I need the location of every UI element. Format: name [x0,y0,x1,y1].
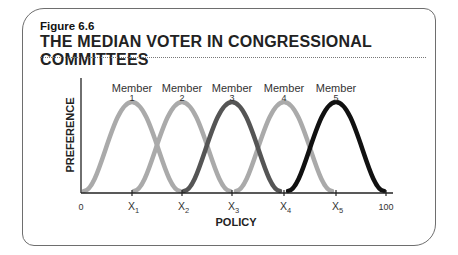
tick-label-x4: X4 [280,200,291,215]
tick-label-x5: X5 [332,200,343,215]
curve-member-2 [134,102,230,191]
chart: Member 1 Member 2 Member 3 Member 4 Memb… [0,0,458,255]
x-axis-title: POLICY [216,216,258,228]
curve-member-1 [84,102,180,191]
tick-label-x3: X3 [228,200,239,215]
tick-label-x1: X1 [128,200,139,215]
member-number-4: 4 [281,93,286,103]
member-number-2: 2 [179,93,184,103]
member-number-5: 5 [333,93,338,103]
curve-member-5 [288,102,384,191]
curve-member-4 [236,102,332,191]
tick-label-0: 0 [78,202,83,212]
tick-label-100: 100 [378,202,393,212]
curve-member-3 [184,102,280,191]
member-number-1: 1 [129,93,134,103]
tick-label-x2: X2 [178,200,189,215]
member-number-3: 3 [229,93,234,103]
y-axis-title: PREFERENCE [64,97,76,172]
